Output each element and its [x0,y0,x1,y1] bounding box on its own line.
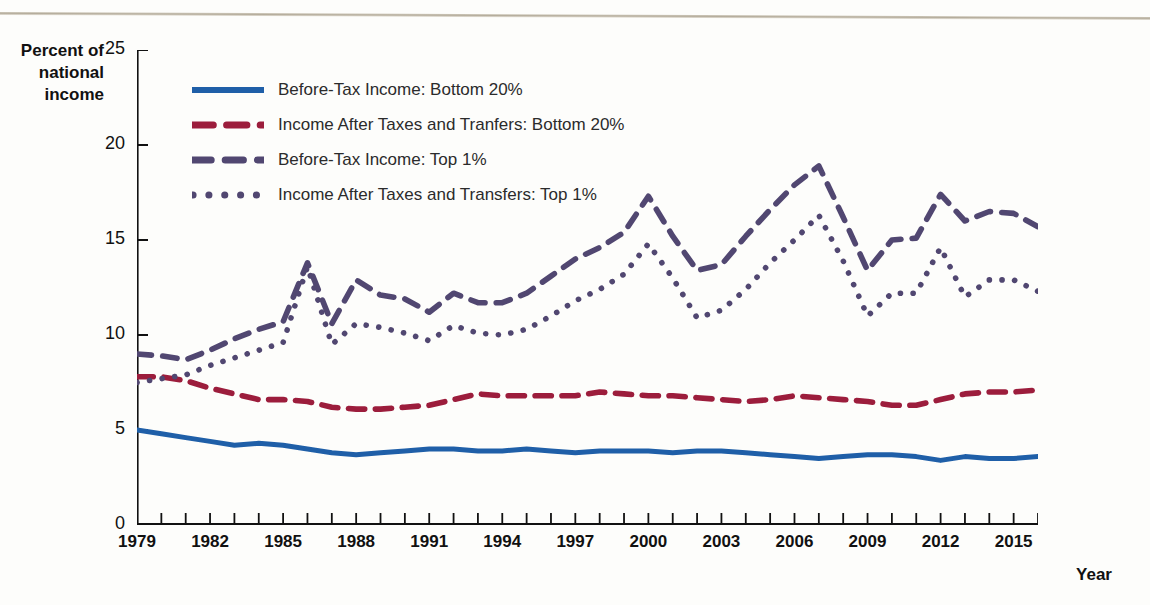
x-tick-label: 1982 [175,532,245,552]
y-tick-label: 0 [85,513,125,534]
y-tick-label: 25 [85,38,125,59]
x-tick-label: 1997 [540,532,610,552]
series-line-1 [137,430,1038,460]
y-tick-label: 15 [85,228,125,249]
y-tick-label: 10 [85,323,125,344]
series-line-2 [137,377,1038,409]
x-tick-label: 2003 [686,532,756,552]
x-tick-label: 2009 [833,532,903,552]
x-tick-label: 2000 [613,532,683,552]
legend-item[interactable]: Before-Tax Income: Bottom 20% [192,76,624,104]
legend-item[interactable]: Income After Taxes and Transfers: Top 1% [192,181,624,209]
legend-label: Before-Tax Income: Top 1% [278,150,487,170]
chart-page: Percent of national income 2520151050 19… [0,0,1150,605]
legend-label: Income After Taxes and Tranfers: Bottom … [278,115,624,135]
x-tick-label: 1985 [248,532,318,552]
chart-legend: Before-Tax Income: Bottom 20%Income Afte… [192,76,624,216]
top-divider-rule [0,12,1150,20]
y-tick-label: 20 [85,133,125,154]
x-axis-title: Year [1076,565,1112,585]
legend-label: Income After Taxes and Transfers: Top 1% [278,185,597,205]
y-tick-label: 5 [85,418,125,439]
x-tick-label: 1994 [467,532,537,552]
legend-item[interactable]: Income After Taxes and Tranfers: Bottom … [192,111,624,139]
legend-label: Before-Tax Income: Bottom 20% [278,80,523,100]
x-tick-label: 1991 [394,532,464,552]
x-tick-label: 2015 [979,532,1049,552]
x-tick-label: 1988 [321,532,391,552]
x-tick-label: 1979 [102,532,172,552]
legend-item[interactable]: Before-Tax Income: Top 1% [192,146,624,174]
x-tick-label: 2012 [906,532,976,552]
x-tick-label: 2006 [759,532,829,552]
